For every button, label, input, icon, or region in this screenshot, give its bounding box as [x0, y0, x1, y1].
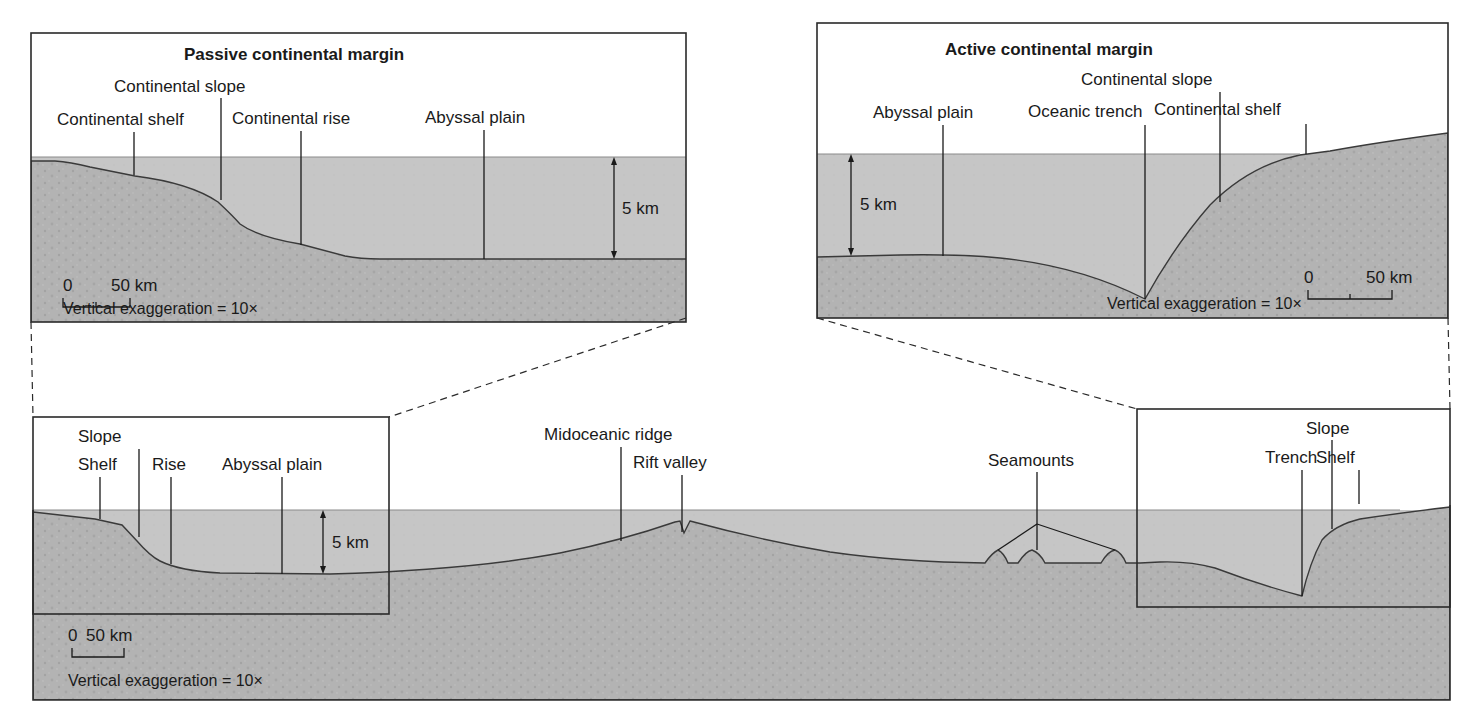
- label-rift-valley: Rift valley: [633, 453, 707, 472]
- label-continental-slope: Continental slope: [114, 77, 245, 96]
- label-midoceanic-ridge: Midoceanic ridge: [544, 425, 673, 444]
- label-abyssal-plain-active: Abyssal plain: [873, 103, 973, 122]
- label-abyssal-plain-basin: Abyssal plain: [222, 455, 322, 474]
- zoom-connectors: [31, 318, 1450, 417]
- passive-vertical-exaggeration: Vertical exaggeration = 10×: [63, 300, 258, 317]
- active-vertical-exaggeration: Vertical exaggeration = 10×: [1107, 295, 1302, 312]
- svg-text:50 km: 50 km: [111, 276, 157, 295]
- label-abyssal-plain: Abyssal plain: [425, 108, 525, 127]
- label-oceanic-trench: Oceanic trench: [1028, 102, 1142, 121]
- passive-margin-title: Passive continental margin: [184, 45, 404, 64]
- label-slope: Slope: [78, 427, 121, 446]
- active-margin-panel: Active continental margin Continental sl…: [817, 23, 1448, 320]
- label-shelf: Shelf: [78, 455, 117, 474]
- label-continental-shelf: Continental shelf: [57, 110, 184, 129]
- svg-text:0: 0: [63, 276, 72, 295]
- ocean-floor-diagram: Passive continental margin Continental s…: [0, 0, 1475, 728]
- label-continental-slope-active: Continental slope: [1081, 70, 1212, 89]
- svg-text:0: 0: [1304, 268, 1313, 287]
- label-continental-shelf-active: Continental shelf: [1154, 100, 1281, 119]
- svg-text:50 km: 50 km: [1366, 268, 1412, 287]
- label-seamounts: Seamounts: [988, 451, 1074, 470]
- basin-depth-label: 5 km: [332, 533, 369, 552]
- label-shelf-right: Shelf: [1316, 448, 1355, 467]
- active-margin-title: Active continental margin: [945, 40, 1153, 59]
- basin-vertical-exaggeration: Vertical exaggeration = 10×: [68, 672, 263, 689]
- passive-margin-panel: Passive continental margin Continental s…: [31, 33, 690, 330]
- ocean-basin-panel: Slope Shelf Rise Abyssal plain Midoceani…: [33, 409, 1450, 700]
- label-rise: Rise: [152, 455, 186, 474]
- label-trench: Trench: [1265, 448, 1317, 467]
- svg-text:50 km: 50 km: [86, 626, 132, 645]
- svg-text:0: 0: [68, 626, 77, 645]
- active-depth-label: 5 km: [860, 195, 897, 214]
- passive-depth-label: 5 km: [622, 199, 659, 218]
- label-continental-rise: Continental rise: [232, 109, 350, 128]
- label-slope-right: Slope: [1306, 419, 1349, 438]
